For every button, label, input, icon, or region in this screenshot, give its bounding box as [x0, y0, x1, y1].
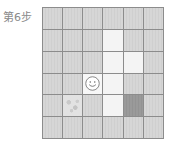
board-cell-wall[interactable]: [43, 74, 62, 95]
board-cell-wall[interactable]: [43, 52, 62, 73]
board-cell-wall[interactable]: [124, 30, 143, 51]
board-cell-wall[interactable]: [144, 95, 163, 116]
board-cell-wall[interactable]: [83, 117, 102, 138]
board-cell-floor[interactable]: [103, 74, 122, 95]
board-cell-wall[interactable]: [43, 30, 62, 51]
board-cell-wall[interactable]: [63, 74, 82, 95]
board-cell-wall[interactable]: [63, 52, 82, 73]
board-cell-dark[interactable]: [124, 95, 143, 116]
board-cell-floor[interactable]: [103, 52, 122, 73]
board-cell-wall[interactable]: [43, 8, 62, 29]
board-cell-wall[interactable]: [124, 74, 143, 95]
board-cell-wall[interactable]: [124, 117, 143, 138]
board-cell-wall[interactable]: [43, 117, 62, 138]
board-cell-player[interactable]: [83, 74, 102, 95]
board-cell-floor[interactable]: [124, 52, 143, 73]
smiley-face-icon: [85, 76, 100, 91]
board-cell-wall[interactable]: [144, 8, 163, 29]
board-cell-wall[interactable]: [144, 30, 163, 51]
board-cell-floor[interactable]: [103, 95, 122, 116]
step-counter-label: 第6步: [3, 8, 32, 24]
board-cell-wall[interactable]: [43, 95, 62, 116]
board-cell-wall[interactable]: [63, 117, 82, 138]
game-board: [42, 7, 164, 139]
board-cell-wall[interactable]: [83, 95, 102, 116]
board-cell-wall[interactable]: [124, 8, 143, 29]
board-cell-wall[interactable]: [63, 8, 82, 29]
board-cell-wall[interactable]: [83, 8, 102, 29]
board-cell-wall[interactable]: [103, 8, 122, 29]
board-cell-wall[interactable]: [83, 30, 102, 51]
board-cell-wall[interactable]: [144, 117, 163, 138]
board-cell-wall[interactable]: [63, 30, 82, 51]
board-cell-wall[interactable]: [83, 52, 102, 73]
board-cell-wall[interactable]: [144, 52, 163, 73]
board-cell-wall[interactable]: [103, 117, 122, 138]
board-cell-pattern[interactable]: [63, 95, 82, 116]
board-cell-floor[interactable]: [103, 30, 122, 51]
board-cell-wall[interactable]: [144, 74, 163, 95]
